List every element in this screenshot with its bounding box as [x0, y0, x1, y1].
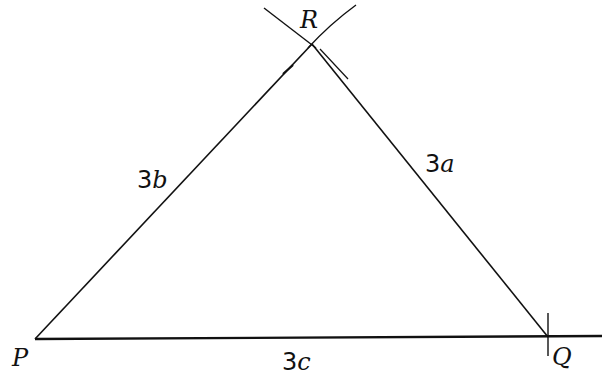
side-rq — [312, 44, 548, 337]
side-label-pr-coef: 3 — [137, 166, 152, 194]
side-label-pr: 3b — [137, 168, 168, 192]
triangle-diagram — [0, 0, 604, 379]
side-label-rq-coef: 3 — [425, 150, 440, 178]
side-label-pq-coef: 3 — [282, 348, 297, 376]
vertex-label-r: R — [300, 8, 318, 32]
side-pr — [35, 44, 312, 339]
side-label-pr-var: b — [152, 166, 167, 194]
side-label-pq: 3c — [282, 350, 311, 374]
side-pq — [35, 336, 602, 339]
side-rq-overstroke — [320, 49, 348, 79]
vertex-label-q: Q — [552, 345, 572, 369]
side-label-pq-var: c — [297, 348, 310, 376]
side-label-rq-var: a — [440, 150, 454, 178]
side-pr-overstroke — [283, 65, 293, 74]
vertex-label-p: P — [12, 346, 28, 370]
side-label-rq: 3a — [425, 152, 455, 176]
